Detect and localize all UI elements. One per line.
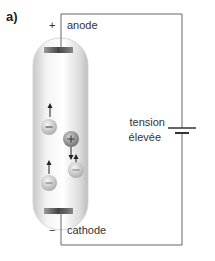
source-label-line1: tension	[125, 116, 165, 128]
high-voltage-source-icon	[168, 128, 196, 133]
glass-tube	[33, 38, 88, 230]
cathode-label: cathode	[67, 224, 106, 236]
source-label-line2: élevée	[125, 131, 161, 143]
anode-sign: +	[49, 19, 55, 31]
discharge-tube-diagram	[0, 0, 215, 261]
cathode-electrode	[44, 208, 73, 214]
anode-label: anode	[67, 19, 98, 31]
anode-electrode	[44, 47, 73, 53]
panel-label: a)	[6, 9, 18, 24]
cathode-sign: −	[49, 224, 55, 236]
